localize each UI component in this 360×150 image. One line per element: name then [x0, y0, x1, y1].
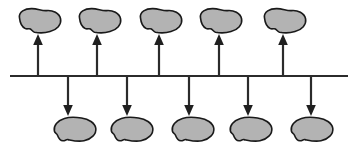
- arrowhead-up-icon: [33, 34, 43, 45]
- arrow-up-4: [214, 34, 224, 76]
- arrow-up-1: [33, 34, 43, 76]
- blob-node-below-4: [230, 117, 272, 141]
- arrow-up-2: [92, 34, 102, 76]
- blob-node-below-5: [291, 117, 333, 141]
- arrowhead-up-icon: [92, 34, 102, 45]
- arrowhead-up-icon: [278, 34, 288, 45]
- blob-node-above-3: [140, 9, 181, 33]
- arrow-down-5: [306, 76, 316, 116]
- nodes-above-group: [19, 9, 305, 33]
- arrowhead-down-icon: [184, 105, 194, 116]
- arrowhead-down-icon: [63, 105, 73, 116]
- blob-node-below-1: [54, 117, 96, 141]
- arrow-down-3: [184, 76, 194, 116]
- arrowhead-down-icon: [243, 105, 253, 116]
- diagram-svg: [0, 0, 360, 150]
- blob-node-above-5: [264, 9, 305, 33]
- arrow-down-2: [122, 76, 132, 116]
- arrows-down-group: [63, 76, 316, 116]
- arrowhead-down-icon: [306, 105, 316, 116]
- arrow-up-3: [154, 34, 164, 76]
- arrowhead-down-icon: [122, 105, 132, 116]
- arrowhead-up-icon: [214, 34, 224, 45]
- arrowhead-up-icon: [154, 34, 164, 45]
- nodes-below-group: [54, 117, 333, 141]
- blob-node-below-3: [172, 117, 214, 141]
- arrow-up-5: [278, 34, 288, 76]
- arrow-down-1: [63, 76, 73, 116]
- blob-node-below-2: [111, 117, 153, 141]
- arrows-up-group: [33, 34, 288, 76]
- blob-node-above-2: [79, 9, 120, 33]
- blob-node-above-4: [200, 9, 241, 33]
- diagram-canvas: [0, 0, 360, 150]
- blob-node-above-1: [19, 9, 60, 33]
- arrow-down-4: [243, 76, 253, 116]
